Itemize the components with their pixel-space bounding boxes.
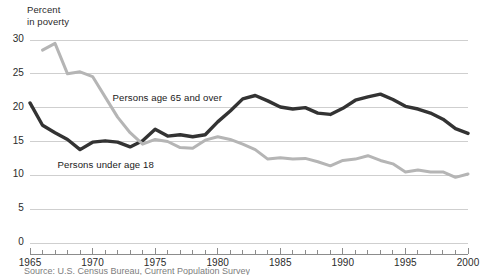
- x-tick-label: 1995: [385, 257, 425, 268]
- series-label-age-65-over: Persons age 65 and over: [113, 92, 223, 103]
- y-tick-label: 0: [0, 236, 24, 247]
- chart-footnote: Source: U.S. Census Bureau, Current Popu…: [24, 266, 250, 275]
- y-tick-label: 20: [0, 101, 24, 112]
- y-tick-label: 10: [0, 168, 24, 179]
- y-tick-label: 15: [0, 135, 24, 146]
- y-tick-label: 25: [0, 67, 24, 78]
- chart-axis-title: Percent in poverty: [27, 4, 69, 27]
- series-line-age-65-over: [43, 43, 468, 177]
- series-label-under-18: Persons under age 18: [58, 159, 154, 170]
- x-tick-label: 1985: [260, 257, 300, 268]
- y-tick-label: 30: [0, 33, 24, 44]
- x-tick-label: 1990: [323, 257, 363, 268]
- y-tick-label: 5: [0, 202, 24, 213]
- axis-title-line2: in poverty: [27, 16, 69, 27]
- x-tick-label: 2000: [448, 257, 484, 268]
- axis-title-line1: Percent: [27, 4, 60, 15]
